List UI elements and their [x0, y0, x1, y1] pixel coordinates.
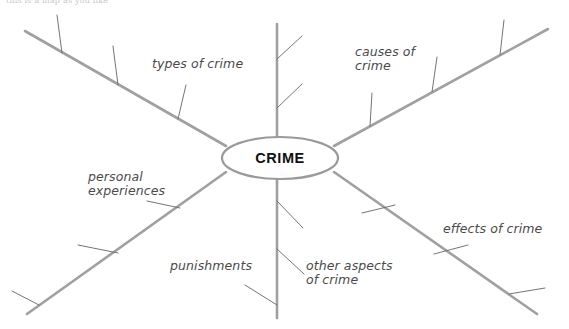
sub-branch-tick-causes-of-crime-2[interactable] [432, 57, 437, 92]
branch-label-types-of-crime: types of crime [152, 57, 243, 71]
sub-branch-tick-types-of-crime-3[interactable] [57, 15, 62, 53]
branch-label-causes-of-crime: causes of crime [355, 45, 415, 73]
branch-label-effects-of-crime: effects of crime [443, 222, 542, 236]
sub-branch-tick-types-of-crime-2[interactable] [113, 46, 118, 85]
sub-branch-tick-punishments-other-aspects-2[interactable] [277, 249, 304, 274]
sub-branch-tick-upper-vertical-1[interactable] [277, 84, 302, 108]
mindmap-canvas: this is a map as you like CRIME types of… [0, 0, 569, 329]
branch-label-punishments-other-aspects: punishments [170, 259, 252, 273]
sub-branch-tick-personal-experiences-2[interactable] [78, 245, 118, 253]
branch-line-types-of-crime[interactable] [25, 31, 226, 146]
sub-branch-tick-effects-of-crime-3[interactable] [509, 288, 545, 294]
sub-branch-tick-upper-vertical-2[interactable] [277, 36, 302, 59]
sub-branch-tick-causes-of-crime-3[interactable] [500, 20, 504, 55]
sub-branch-tick-personal-experiences-3[interactable] [12, 291, 39, 305]
sub-branch-tick-types-of-crime-1[interactable] [178, 85, 186, 119]
sub-branch-tick-punishments-other-aspects-1[interactable] [277, 201, 303, 228]
sub-branch-tick-punishments-other-aspects-3[interactable] [245, 285, 277, 305]
sub-branch-tick-personal-experiences-1[interactable] [147, 201, 180, 208]
branch-line-effects-of-crime[interactable] [334, 172, 537, 314]
branch-label-personal-experiences: personal experiences [88, 170, 165, 198]
branch-label-other-aspects-of-crime: other aspects of crime [306, 259, 393, 287]
sub-branch-tick-causes-of-crime-1[interactable] [370, 93, 372, 126]
center-topic-label: CRIME [222, 150, 338, 166]
